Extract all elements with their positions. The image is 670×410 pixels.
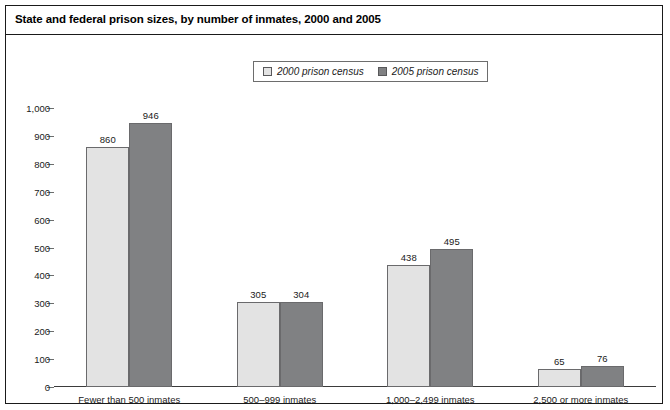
page-title: State and federal prison sizes, by numbe… [15, 13, 381, 25]
bar-2000[interactable]: 860 [86, 147, 129, 387]
bar-pair: 305304 [237, 108, 323, 387]
bar-group: 305304500–999 inmates [237, 108, 323, 387]
x-axis-category-label: 1,000–2,499 inmates [386, 394, 475, 405]
bar-value-label: 305 [250, 289, 266, 300]
bar-2000[interactable]: 438 [387, 265, 430, 387]
legend-label-2005: 2005 prison census [392, 66, 479, 77]
x-axis-category-label: Fewer than 500 inmates [78, 394, 180, 405]
bar-value-label: 304 [293, 289, 309, 300]
bar-value-label: 495 [444, 236, 460, 247]
y-axis-tick-label: 900 [34, 130, 50, 141]
y-axis-tick-label: 400 [34, 270, 50, 281]
bar-value-label: 65 [554, 356, 565, 367]
chart-figure: State and federal prison sizes, by numbe… [5, 5, 663, 404]
legend-swatch-dark-square-icon [378, 67, 387, 76]
bar-group: 860946Fewer than 500 inmates [86, 108, 172, 387]
bar-value-label: 860 [100, 134, 116, 145]
x-axis-category-label: 2,500 or more inmates [533, 394, 628, 405]
y-axis-tick-label: 500 [34, 242, 50, 253]
y-axis-tick-label: 200 [34, 326, 50, 337]
bar-group: 65762,500 or more inmates [538, 108, 624, 387]
x-axis-category-label: 500–999 inmates [243, 394, 316, 405]
legend-item-2000: 2000 prison census [263, 66, 364, 77]
bar-value-label: 946 [143, 110, 159, 121]
y-axis-tick-label: 0 [45, 382, 50, 393]
y-axis-tick-label: 1,000 [26, 103, 50, 114]
bar-value-label: 76 [597, 353, 608, 364]
y-axis-tick-label: 800 [34, 158, 50, 169]
legend-swatch-light-square-icon [263, 67, 272, 76]
y-axis-tick-label: 300 [34, 298, 50, 309]
bar-pair: 6576 [538, 108, 624, 387]
bar-2005[interactable]: 304 [280, 302, 323, 387]
bar-2005[interactable]: 76 [581, 366, 624, 387]
bar-2005[interactable]: 946 [129, 123, 172, 387]
y-axis-tick-label: 700 [34, 186, 50, 197]
y-axis-tick-label: 600 [34, 214, 50, 225]
bar-2000[interactable]: 305 [237, 302, 280, 387]
chart-legend: 2000 prison census 2005 prison census [253, 61, 488, 82]
bar-2000[interactable]: 65 [538, 369, 581, 387]
bar-pair: 438495 [387, 108, 473, 387]
title-band: State and federal prison sizes, by numbe… [6, 6, 662, 35]
bar-value-label: 438 [401, 252, 417, 263]
bar-pair: 860946 [86, 108, 172, 387]
bar-group: 4384951,000–2,499 inmates [387, 108, 473, 387]
bar-2005[interactable]: 495 [430, 249, 473, 387]
legend-item-2005: 2005 prison census [378, 66, 479, 77]
y-axis-tick-label: 100 [34, 354, 50, 365]
plot-area: 01002003004005006007008009001,000 860946… [54, 108, 656, 387]
legend-label-2000: 2000 prison census [277, 66, 364, 77]
